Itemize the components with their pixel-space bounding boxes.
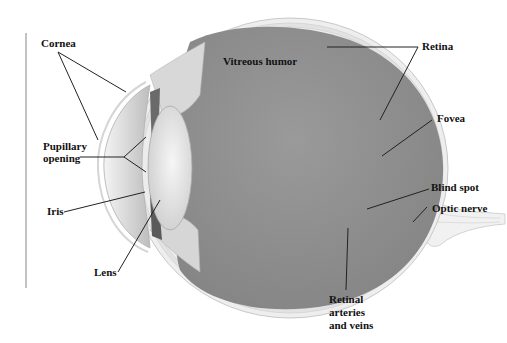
label-retinal-line3: and veins — [329, 319, 373, 332]
label-optic-nerve: Optic nerve — [432, 202, 487, 215]
lens-shape — [148, 106, 192, 230]
label-retinal-line2: arteries — [329, 306, 365, 319]
label-iris: Iris — [47, 205, 64, 218]
label-retinal-line1: Retinal — [329, 293, 363, 306]
label-cornea: Cornea — [41, 37, 76, 50]
label-fovea: Fovea — [437, 112, 465, 125]
label-blind-spot: Blind spot — [431, 181, 479, 194]
label-retina: Retina — [422, 40, 453, 53]
label-pupillary-line2: opening — [43, 152, 80, 165]
eye-diagram: Cornea Pupillary opening Iris Lens Vitre… — [0, 0, 507, 343]
label-vitreous-humor: Vitreous humor — [223, 55, 297, 68]
label-lens: Lens — [94, 266, 117, 279]
